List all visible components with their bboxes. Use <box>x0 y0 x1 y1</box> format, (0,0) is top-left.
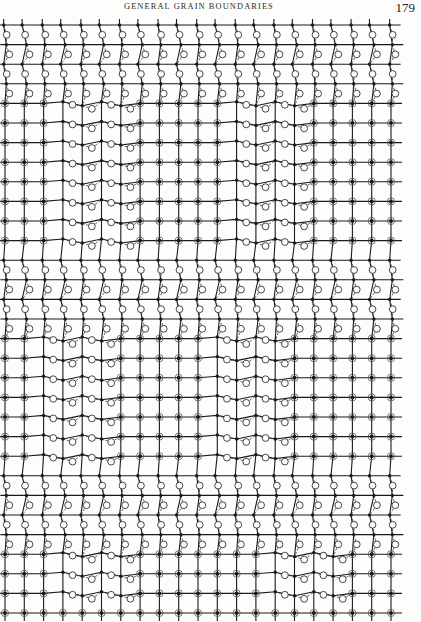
filled-dot-atom <box>136 63 139 66</box>
open-circle-atom <box>6 51 13 58</box>
filled-dot-atom <box>391 317 394 320</box>
open-circle-atom <box>103 502 110 509</box>
filled-dot-atom <box>119 415 123 419</box>
open-circle-atom <box>253 31 260 38</box>
open-circle-atom <box>273 482 280 489</box>
open-circle-atom <box>243 180 250 187</box>
open-circle-atom <box>176 31 183 38</box>
filled-dot-atom <box>350 454 354 458</box>
open-circle-atom <box>88 454 95 461</box>
open-circle-atom <box>281 141 288 148</box>
filled-dot-atom <box>22 219 26 223</box>
filled-dot-atom <box>198 82 201 85</box>
filled-dot-atom <box>198 278 201 281</box>
filled-dot-atom <box>312 160 316 164</box>
open-circle-atom <box>22 267 29 274</box>
filled-dot-atom <box>213 474 216 477</box>
filled-dot-atom <box>98 298 101 301</box>
filled-dot-atom <box>42 335 45 338</box>
filled-dot-atom <box>42 433 45 436</box>
open-circle-atom <box>158 71 165 78</box>
filled-dot-atom <box>179 43 182 46</box>
filled-dot-atom <box>235 159 238 162</box>
filled-dot-atom <box>22 101 26 105</box>
filled-dot-atom <box>334 533 337 536</box>
filled-dot-atom <box>372 82 375 85</box>
filled-dot-atom <box>293 222 296 225</box>
open-circle-atom <box>292 306 299 313</box>
open-circle-atom <box>6 502 13 509</box>
open-circle-atom <box>243 360 250 367</box>
filled-dot-atom <box>63 533 66 536</box>
open-circle-atom <box>88 203 95 210</box>
filled-dot-atom <box>218 317 221 320</box>
filled-dot-atom <box>100 120 103 123</box>
filled-dot-atom <box>254 453 257 456</box>
filled-dot-atom <box>215 180 219 184</box>
open-circle-atom <box>262 337 269 344</box>
filled-dot-atom <box>274 159 277 162</box>
open-circle-atom <box>6 90 13 97</box>
book-page: GENERAL GRAIN BOUNDARIES 179 <box>0 0 421 622</box>
open-circle-atom <box>243 458 250 465</box>
filled-dot-atom <box>22 454 26 458</box>
filled-dot-atom <box>213 63 216 66</box>
open-circle-atom <box>103 286 110 293</box>
open-circle-atom <box>196 71 203 78</box>
open-circle-atom <box>22 521 29 528</box>
filled-dot-atom <box>215 591 219 595</box>
open-circle-atom <box>301 105 308 112</box>
open-circle-atom <box>224 454 231 461</box>
filled-dot-atom <box>274 198 277 201</box>
filled-dot-atom <box>274 120 277 123</box>
filled-dot-atom <box>3 160 7 164</box>
filled-dot-atom <box>334 317 337 320</box>
filled-dot-atom <box>388 513 391 516</box>
open-circle-atom <box>335 325 342 332</box>
filled-dot-atom <box>41 474 44 477</box>
open-circle-atom <box>69 552 76 559</box>
filled-dot-atom <box>81 163 84 166</box>
filled-dot-atom <box>102 494 105 497</box>
filled-dot-atom <box>179 494 182 497</box>
open-circle-atom <box>26 541 33 548</box>
filled-dot-atom <box>215 219 219 223</box>
open-circle-atom <box>301 595 308 602</box>
filled-dot-atom <box>291 63 294 66</box>
open-circle-atom <box>176 267 183 274</box>
open-circle-atom <box>60 482 67 489</box>
open-circle-atom <box>262 223 269 230</box>
filled-dot-atom <box>195 259 198 262</box>
open-circle-atom <box>315 51 322 58</box>
open-circle-atom <box>108 399 115 406</box>
filled-dot-atom <box>293 435 297 439</box>
filled-dot-atom <box>119 163 122 166</box>
filled-dot-atom <box>350 435 354 439</box>
open-circle-atom <box>315 286 322 293</box>
open-circle-atom <box>312 71 319 78</box>
open-circle-atom <box>276 51 283 58</box>
open-circle-atom <box>374 502 381 509</box>
open-circle-atom <box>281 458 288 465</box>
filled-dot-atom <box>157 199 161 203</box>
open-circle-atom <box>119 71 126 78</box>
open-circle-atom <box>369 71 376 78</box>
filled-dot-atom <box>102 317 105 320</box>
open-circle-atom <box>99 267 106 274</box>
open-circle-atom <box>26 51 33 58</box>
open-circle-atom <box>122 286 129 293</box>
filled-dot-atom <box>100 611 104 615</box>
open-circle-atom <box>262 145 269 152</box>
filled-dot-atom <box>196 552 200 556</box>
filled-dot-atom <box>138 160 142 164</box>
filled-dot-atom <box>331 180 335 184</box>
filled-dot-atom <box>2 259 5 262</box>
filled-dot-atom <box>157 141 161 145</box>
filled-dot-atom <box>312 571 315 574</box>
open-circle-atom <box>108 141 115 148</box>
filled-dot-atom <box>80 611 84 615</box>
filled-dot-atom <box>272 63 275 66</box>
open-circle-atom <box>369 267 376 274</box>
open-circle-atom <box>243 160 250 167</box>
open-circle-atom <box>69 341 76 348</box>
